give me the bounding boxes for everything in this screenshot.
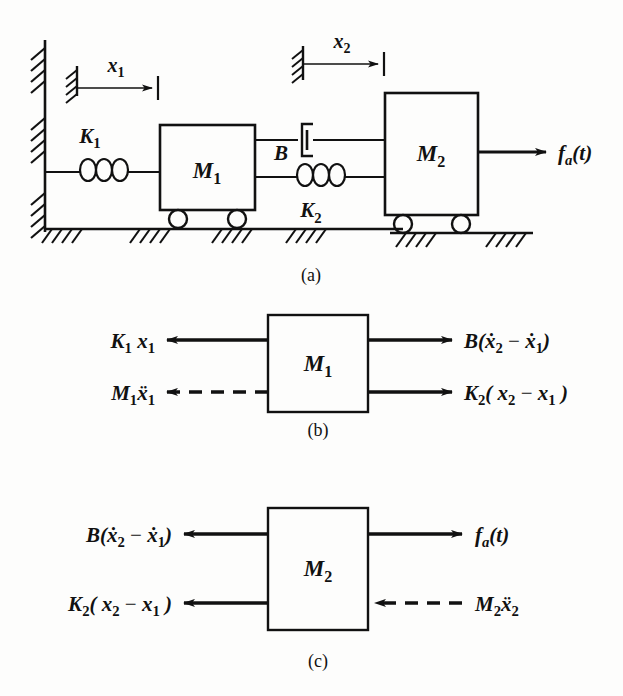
force-fa-c-label: fa(t) <box>475 523 509 550</box>
caption-a: (a) <box>301 265 321 286</box>
mass-m1: M1 <box>160 125 255 210</box>
label-b: B <box>273 141 288 165</box>
mechanical-system-figure: x1 x2 <box>0 0 623 696</box>
caption-c: (c) <box>308 651 328 672</box>
label-fa: fa(t) <box>558 141 592 168</box>
figure-root: x1 x2 <box>0 0 623 696</box>
caption-b: (b) <box>308 420 329 441</box>
mass-m2: M2 <box>385 93 478 215</box>
